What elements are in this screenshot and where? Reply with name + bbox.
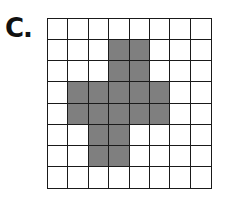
grid-cell — [170, 19, 190, 40]
grid-cell-shaded — [109, 146, 129, 167]
grid-cell — [48, 40, 68, 61]
grid-cell — [191, 19, 211, 40]
grid-cell — [48, 167, 68, 188]
grid-cell — [89, 167, 109, 188]
grid-cell — [68, 40, 88, 61]
grid-cell — [150, 146, 170, 167]
grid-cell — [48, 146, 68, 167]
grid-cell-shaded — [150, 104, 170, 125]
grid-cell — [170, 40, 190, 61]
grid-cell — [89, 19, 109, 40]
grid-cell-shaded — [130, 40, 150, 61]
grid-cell-shaded — [68, 104, 88, 125]
grid-cell-shaded — [109, 40, 129, 61]
square-grid — [47, 18, 212, 189]
grid-cell-shaded — [109, 125, 129, 146]
grid-cell — [191, 82, 211, 103]
grid-cell — [170, 104, 190, 125]
grid-cell — [191, 146, 211, 167]
grid-cell-shaded — [89, 104, 109, 125]
grid-cell-shaded — [89, 82, 109, 103]
grid-cell — [150, 19, 170, 40]
grid-cell — [130, 125, 150, 146]
grid-cell — [191, 125, 211, 146]
grid-cell — [150, 61, 170, 82]
grid-cell — [89, 40, 109, 61]
grid-cell-shaded — [89, 146, 109, 167]
grid-cell-shaded — [89, 125, 109, 146]
grid-cell — [68, 167, 88, 188]
grid-cell-shaded — [109, 82, 129, 103]
grid-cell-shaded — [150, 82, 170, 103]
grid-cell — [89, 61, 109, 82]
grid-cell — [150, 167, 170, 188]
grid-cell — [48, 19, 68, 40]
grid-cell-shaded — [130, 104, 150, 125]
grid-cell — [48, 82, 68, 103]
grid-cell — [130, 146, 150, 167]
grid-cell — [191, 61, 211, 82]
grid-cell-shaded — [109, 61, 129, 82]
grid-cell — [170, 61, 190, 82]
grid-cell — [170, 125, 190, 146]
grid-cell — [170, 167, 190, 188]
grid-cell — [48, 125, 68, 146]
grid-cell — [170, 82, 190, 103]
grid-cell — [48, 104, 68, 125]
grid-cell — [68, 61, 88, 82]
grid-cell-shaded — [68, 82, 88, 103]
grid-cell-shaded — [109, 104, 129, 125]
grid-cell — [109, 19, 129, 40]
grid-cell — [130, 19, 150, 40]
grid-cell — [68, 146, 88, 167]
grid-cell-shaded — [130, 82, 150, 103]
grid-cell — [170, 146, 190, 167]
grid-cell — [191, 104, 211, 125]
grid-cell — [130, 167, 150, 188]
grid-cell — [109, 167, 129, 188]
figure-label: C. — [5, 13, 32, 43]
grid-cell — [191, 167, 211, 188]
grid-cell-shaded — [130, 61, 150, 82]
grid-cell — [150, 125, 170, 146]
grid-cell — [150, 40, 170, 61]
grid-cell — [48, 61, 68, 82]
grid-cell — [68, 19, 88, 40]
grid-cell — [191, 40, 211, 61]
grid-cell — [68, 125, 88, 146]
